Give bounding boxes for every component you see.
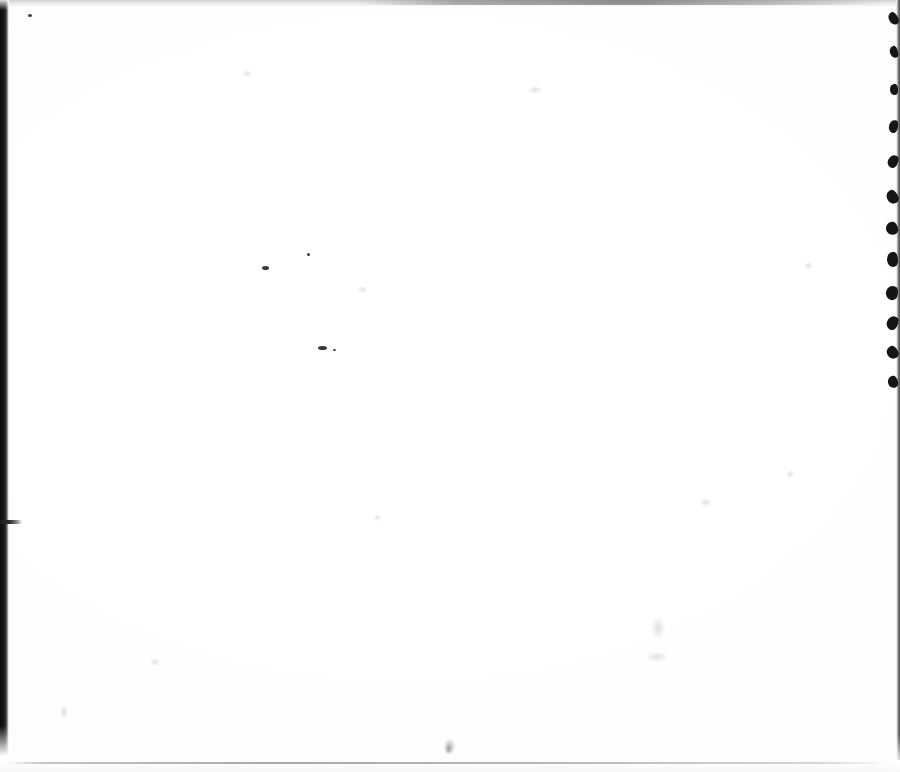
faint-scan-mark xyxy=(786,470,794,478)
scanned-page xyxy=(0,0,900,772)
faint-scan-mark xyxy=(150,658,160,666)
faint-scan-mark xyxy=(374,514,381,521)
faint-scan-mark xyxy=(528,86,542,94)
faint-scan-mark xyxy=(804,262,813,270)
faint-scan-mark xyxy=(646,652,668,662)
faint-scan-mark xyxy=(700,498,712,507)
faint-scan-mark xyxy=(358,286,367,293)
faint-scan-mark xyxy=(651,617,665,639)
faint-scan-mark xyxy=(242,70,252,77)
faint-mark-layer xyxy=(0,0,900,772)
faint-scan-mark xyxy=(60,706,68,718)
